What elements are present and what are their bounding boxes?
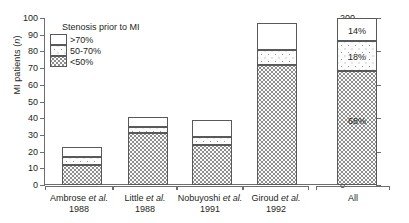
bar-ambrose [62, 147, 102, 185]
bar-nobuyoshi [192, 120, 232, 185]
y-ticklabel-left-100: 100 [23, 14, 38, 23]
y-axis-left-title-text: MI patients ( [12, 44, 22, 95]
bar-all: 68% 18% 14% [337, 18, 377, 185]
bar-little [128, 117, 168, 186]
category-label-nobuyoshi-year: 1991 [173, 204, 247, 215]
legend-swatch-gt70 [50, 34, 67, 45]
bar-ambrose-segment-lt50 [62, 165, 102, 185]
category-label-nobuyoshi-author: Nobuyoshi [178, 193, 223, 203]
bar-all-segment-50to70: 18% [337, 41, 377, 71]
category-label-little: Little et al. 1988 [111, 193, 179, 215]
category-label-ambrose: Ambrose et al. 1988 [41, 193, 117, 215]
category-bracket-little [113, 186, 177, 190]
bar-little-segment-lt50 [128, 133, 168, 185]
category-label-little-author: Little [124, 193, 146, 203]
y-ticklabel-left-40: 40 [28, 114, 38, 123]
category-label-nobuyoshi: Nobuyoshi et al. 1991 [173, 193, 247, 215]
y-ticklabel-left-20: 20 [28, 148, 38, 157]
category-label-little-year: 1988 [111, 204, 179, 215]
legend-label-gt70: >70% [70, 35, 93, 45]
y-tick-left-90 [40, 35, 45, 36]
y-tick-left-80 [40, 51, 45, 52]
bar-giroud-segment-lt50 [257, 65, 297, 185]
y-ticklabel-left-70: 70 [28, 64, 38, 73]
y-axis-left-title-italic: n [12, 39, 22, 44]
category-label-nobuyoshi-italic: et al. [223, 193, 243, 203]
category-label-ambrose-italic: et al. [89, 193, 109, 203]
category-label-all: All [316, 193, 390, 204]
bar-nobuyoshi-segment-gt70 [192, 120, 232, 137]
y-ticklabel-left-80: 80 [28, 47, 38, 56]
bar-all-segment-lt50: 68% [337, 71, 377, 185]
bar-little-segment-50to70 [128, 127, 168, 134]
category-label-all-author: All [348, 193, 358, 203]
y-tick-left-50 [40, 102, 45, 103]
bar-all-label-50to70: 18% [338, 52, 376, 62]
legend-label-lt50: <50% [70, 57, 93, 67]
bar-all-label-lt50: 68% [338, 116, 376, 126]
legend-swatch-50to70 [50, 45, 67, 56]
category-label-ambrose-year: 1988 [41, 204, 117, 215]
bar-ambrose-segment-gt70 [62, 147, 102, 157]
category-bracket-nobuyoshi [177, 186, 243, 190]
category-label-giroud-author: Giroud [251, 193, 281, 203]
y-tick-left-10 [40, 168, 45, 169]
bar-all-label-gt70: 14% [338, 26, 376, 36]
bar-giroud [257, 23, 297, 185]
y-ticklabel-left-50: 50 [28, 98, 38, 107]
category-label-giroud: Giroud et al. 1992 [241, 193, 311, 215]
y-tick-left-70 [40, 68, 45, 69]
y-ticklabel-left-10: 10 [28, 164, 38, 173]
category-label-giroud-year: 1992 [241, 204, 311, 215]
y-axis-left-title: MI patients (n) [12, 10, 22, 120]
bar-ambrose-segment-50to70 [62, 157, 102, 165]
y-axis-left-title-end: ) [12, 35, 22, 38]
category-label-ambrose-author: Ambrose [50, 193, 89, 203]
y-ticklabel-left-30: 30 [28, 131, 38, 140]
stacked-bar-chart-figure: MI patients (n) 100 90 80 70 60 50 40 30… [0, 0, 409, 223]
category-bracket-giroud [243, 186, 309, 190]
legend-title: Stenosis prior to MI [62, 22, 140, 32]
bar-all-segment-gt70: 14% [337, 18, 377, 41]
bar-nobuyoshi-segment-50to70 [192, 137, 232, 145]
y-tick-left-40 [40, 118, 45, 119]
y-tick-left-100 [40, 18, 45, 19]
category-bracket-all [316, 186, 390, 190]
bar-giroud-segment-50to70 [257, 50, 297, 65]
y-tick-left-60 [40, 85, 45, 86]
category-label-giroud-italic: et al. [281, 193, 301, 203]
y-ticklabel-left-90: 90 [28, 31, 38, 40]
bar-giroud-segment-gt70 [257, 23, 297, 50]
category-label-little-italic: et al. [146, 193, 166, 203]
legend-label-50to70: 50-70% [70, 46, 101, 56]
y-tick-left-30 [40, 135, 45, 136]
bar-nobuyoshi-segment-lt50 [192, 145, 232, 185]
legend-swatch-lt50 [50, 56, 67, 67]
y-ticklabel-left-60: 60 [28, 81, 38, 90]
y-tick-left-20 [40, 152, 45, 153]
y-ticklabel-left-0: 0 [33, 181, 38, 190]
bar-little-segment-gt70 [128, 117, 168, 127]
category-bracket-ambrose [45, 186, 113, 190]
